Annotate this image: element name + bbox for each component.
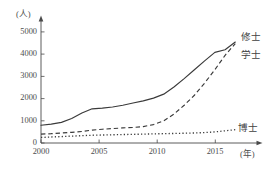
series-label-doctor: 博士: [238, 120, 258, 134]
y-tick-label-0: 0: [8, 138, 37, 147]
series-line-doctor: [41, 130, 235, 138]
x-tick-label-2015: 2015: [200, 147, 230, 156]
y-axis-unit-label: (人): [16, 7, 31, 19]
y-tick-label-5000: 5000: [8, 27, 37, 36]
y-tick-label-3000: 3000: [8, 71, 37, 80]
y-axis-ticks: [41, 32, 45, 143]
x-axis-ticks: [41, 140, 215, 144]
x-axis-unit-label: (年): [240, 147, 255, 159]
y-axis-arrowhead: [39, 16, 44, 22]
y-tick-label-4000: 4000: [8, 49, 37, 58]
series-group: [41, 42, 235, 137]
series-label-master: 修士: [241, 29, 261, 43]
x-tick-label-2000: 2000: [26, 147, 56, 156]
y-tick-label-2000: 2000: [8, 93, 37, 102]
axes-group: [39, 16, 263, 146]
x-axis-arrowhead: [257, 141, 263, 146]
series-line-master: [41, 42, 235, 125]
x-tick-label-2005: 2005: [84, 147, 114, 156]
x-tick-label-2010: 2010: [142, 147, 172, 156]
line-chart: (人) (年) 5000 4000 3000 2000 1000 0 2000 …: [0, 0, 278, 175]
series-label-bachelor: 学士: [241, 47, 261, 61]
y-tick-label-1000: 1000: [8, 116, 37, 125]
series-line-bachelor: [41, 44, 235, 135]
